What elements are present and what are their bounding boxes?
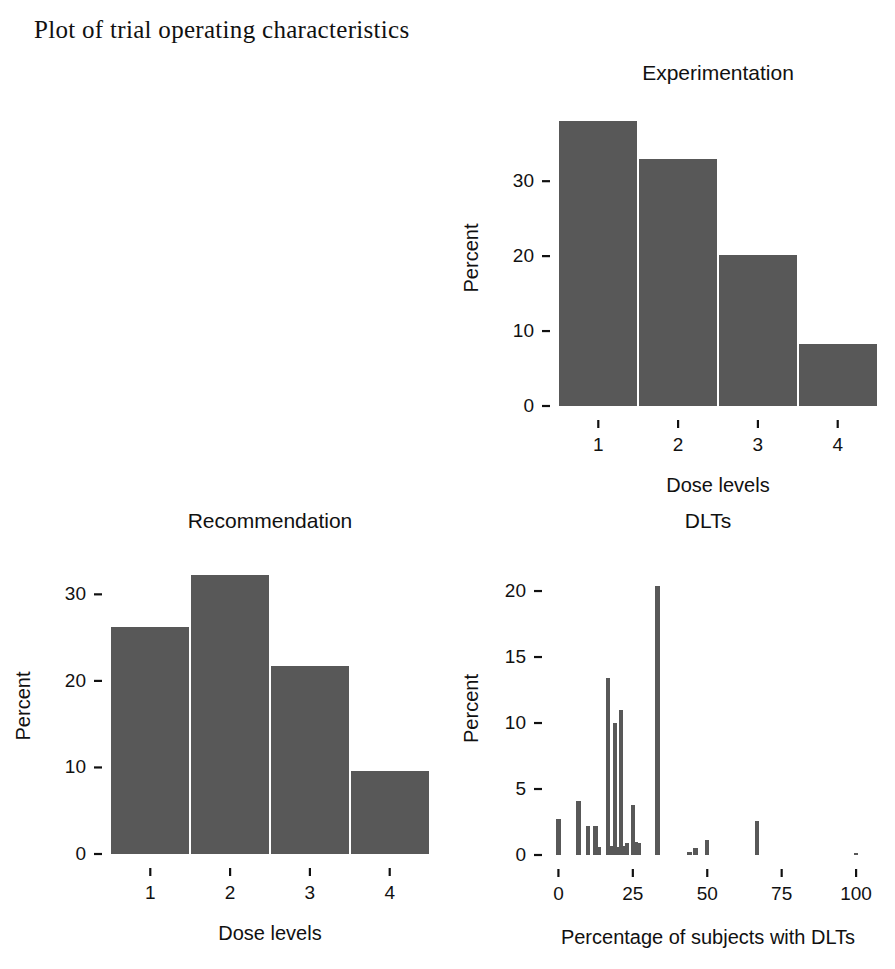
panel-title-dlts: DLTs bbox=[685, 509, 731, 532]
chart-svg-sample-size bbox=[0, 52, 447, 507]
bar bbox=[854, 853, 858, 855]
chart-svg-dlts: DLTsPercentPercentage of subjects with D… bbox=[448, 500, 895, 955]
bar bbox=[559, 121, 637, 406]
y-tick-label: 30 bbox=[65, 583, 86, 604]
bar bbox=[351, 771, 429, 854]
bar bbox=[556, 819, 560, 855]
bar bbox=[619, 710, 623, 855]
bar bbox=[625, 843, 629, 855]
chart-panel-experimentation: ExperimentationPercentDose levels0102030… bbox=[448, 52, 895, 507]
y-tick-label: 15 bbox=[505, 646, 526, 667]
x-tick-label: 25 bbox=[622, 883, 643, 904]
panel-title-experimentation: Experimentation bbox=[642, 61, 794, 84]
y-tick-label: 20 bbox=[505, 580, 526, 601]
bar bbox=[719, 255, 797, 406]
y-tick-label: 10 bbox=[513, 320, 534, 341]
figure-title: Plot of trial operating characteristics bbox=[34, 16, 409, 44]
x-tick-label: 75 bbox=[771, 883, 792, 904]
y-axis-label-recommendation: Percent bbox=[12, 671, 34, 740]
x-axis-label-experimentation: Dose levels bbox=[666, 474, 769, 496]
y-tick-label: 20 bbox=[65, 670, 86, 691]
x-axis-label-dlts: Percentage of subjects with DLTs bbox=[561, 926, 855, 948]
chart-svg-experimentation: ExperimentationPercentDose levels0102030… bbox=[448, 52, 895, 507]
bar bbox=[271, 666, 349, 854]
x-tick-label: 100 bbox=[840, 883, 872, 904]
bar bbox=[576, 801, 580, 855]
chart-panel-recommendation: RecommendationPercentDose levels01020301… bbox=[0, 500, 447, 955]
bar bbox=[613, 723, 617, 855]
x-tick-label: 2 bbox=[673, 434, 684, 455]
x-tick-label: 1 bbox=[145, 882, 156, 903]
y-axis-label-dlts: Percent bbox=[460, 674, 482, 743]
x-tick-label: 50 bbox=[697, 883, 718, 904]
x-tick-label: 3 bbox=[753, 434, 764, 455]
bar bbox=[693, 848, 697, 855]
bar bbox=[799, 344, 877, 406]
bar bbox=[755, 821, 759, 855]
y-tick-label: 0 bbox=[523, 395, 534, 416]
y-tick-label: 10 bbox=[65, 756, 86, 777]
x-tick-label: 1 bbox=[593, 434, 604, 455]
x-tick-label: 0 bbox=[553, 883, 564, 904]
bar bbox=[639, 159, 717, 406]
x-tick-label: 4 bbox=[384, 882, 395, 903]
x-tick-label: 2 bbox=[225, 882, 236, 903]
x-tick-label: 4 bbox=[832, 434, 843, 455]
y-tick-label: 0 bbox=[515, 844, 526, 865]
x-axis-label-recommendation: Dose levels bbox=[218, 922, 321, 944]
bar bbox=[596, 847, 600, 855]
y-tick-label: 0 bbox=[75, 843, 86, 864]
y-tick-label: 10 bbox=[505, 712, 526, 733]
y-axis-label-experimentation: Percent bbox=[460, 223, 482, 292]
bar bbox=[705, 840, 709, 855]
bar bbox=[586, 826, 590, 855]
y-tick-label: 30 bbox=[513, 170, 534, 191]
y-tick-label: 5 bbox=[515, 778, 526, 799]
bar bbox=[637, 843, 641, 855]
figure-root: Plot of trial operating characteristics … bbox=[0, 0, 895, 969]
chart-panel-sample-size bbox=[0, 52, 447, 507]
panel-title-recommendation: Recommendation bbox=[188, 509, 353, 532]
chart-svg-recommendation: RecommendationPercentDose levels01020301… bbox=[0, 500, 447, 955]
y-tick-label: 20 bbox=[513, 245, 534, 266]
bar bbox=[606, 678, 610, 855]
bar bbox=[687, 852, 691, 855]
bar bbox=[655, 586, 659, 855]
x-tick-label: 3 bbox=[305, 882, 316, 903]
bar bbox=[191, 575, 269, 854]
chart-panel-dlts: DLTsPercentPercentage of subjects with D… bbox=[448, 500, 895, 955]
bar bbox=[111, 627, 189, 854]
